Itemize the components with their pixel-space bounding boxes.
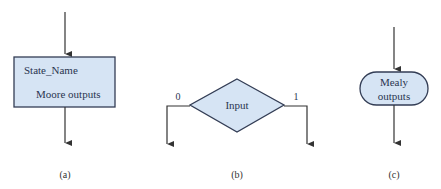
caption-a: (a) [59,169,70,181]
branch-1-label: 1 [294,91,299,102]
conditional-output-group: Mealy outputs (c) [360,27,428,181]
mealy-label: Mealy [380,76,409,88]
decision-diamond-group: Input 0 1 (b) [167,79,307,181]
state-name-label: State_Name [24,64,78,76]
branch-0-label: 0 [176,91,181,102]
branch-0-arrow [167,106,190,144]
state-box-group: State_Name Moore outputs (a) [14,12,115,181]
caption-b: (b) [231,169,243,181]
outputs-label: outputs [378,90,410,102]
input-label: Input [225,99,248,111]
asm-chart-elements: State_Name Moore outputs (a) Input 0 1 (… [0,0,441,189]
caption-c: (c) [388,169,399,181]
moore-outputs-label: Moore outputs [36,88,100,100]
branch-1-arrow [284,106,307,144]
